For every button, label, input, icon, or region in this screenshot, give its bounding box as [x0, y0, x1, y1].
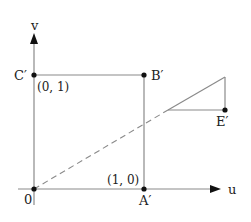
- origin-point: [31, 186, 36, 191]
- point-e: [222, 107, 227, 112]
- point-a: [141, 186, 146, 191]
- origin-label: 0: [24, 192, 32, 207]
- point-c-coord-label: (0, 1): [37, 80, 69, 94]
- point-a-coord-label: (1, 0): [107, 173, 139, 187]
- u-axis-label: u: [228, 182, 236, 197]
- diagram: v u 0 C′ (0, 1) B′ (1, 0) A′ E′: [0, 0, 251, 222]
- triangle-hypotenuse: [168, 77, 225, 110]
- point-e-label: E′: [216, 114, 228, 129]
- uv-plane-figure: v u 0 C′ (0, 1) B′ (1, 0) A′ E′: [0, 0, 251, 222]
- point-a-label: A′: [138, 193, 151, 208]
- point-c: [31, 72, 36, 77]
- point-b-label: B′: [151, 68, 164, 83]
- v-axis-arrow-icon: [30, 33, 38, 44]
- point-b: [141, 72, 146, 77]
- u-axis-arrow-icon: [210, 185, 221, 193]
- dashed-line: [34, 110, 168, 189]
- v-axis-label: v: [30, 18, 39, 33]
- point-c-label: C′: [14, 68, 27, 83]
